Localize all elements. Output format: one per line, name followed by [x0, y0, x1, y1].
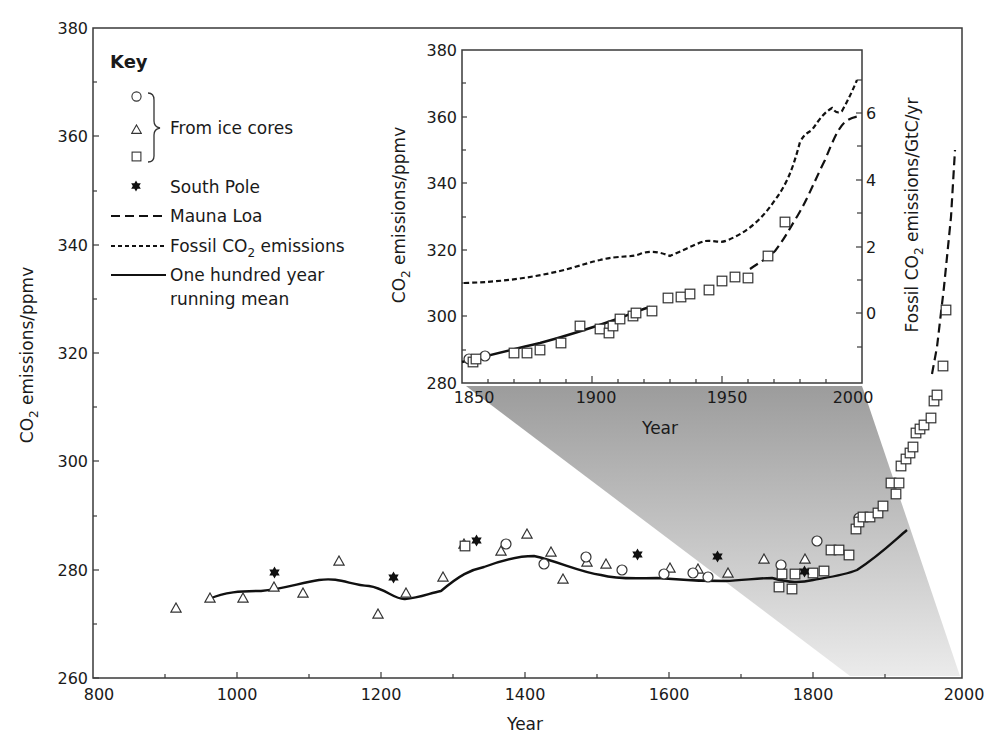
- legend-fossil-label: Fossil CO2 emissions: [170, 236, 345, 260]
- main-y-axis-title: CO2 emissions/ppmv: [17, 267, 41, 443]
- co2-chart: 260 280 300 320 340 360 380 800 1000 120…: [0, 0, 989, 747]
- svg-text:2000: 2000: [944, 685, 985, 704]
- svg-text:280: 280: [426, 374, 457, 393]
- main-x-tick-labels: 800 1000 1200 1400 1600 1800 2000: [84, 685, 985, 704]
- svg-text:320: 320: [57, 344, 88, 363]
- svg-text:320: 320: [426, 241, 457, 260]
- legend-title: Key: [110, 51, 148, 72]
- legend-triangle-icon: [132, 125, 142, 133]
- inset-x-axis-title: Year: [641, 418, 678, 438]
- main-mauna-loa-line: [932, 150, 955, 374]
- main-y-axis: [93, 82, 99, 678]
- legend-star-icon: [131, 181, 141, 192]
- legend-mauna-loa-label: Mauna Loa: [170, 206, 262, 226]
- svg-text:1400: 1400: [505, 685, 546, 704]
- main-y-tick-labels: 260 280 300 320 340 360 380: [57, 19, 88, 688]
- legend-running-mean-label-1: One hundred year: [170, 265, 324, 285]
- svg-text:1800: 1800: [793, 685, 834, 704]
- svg-text:4: 4: [866, 171, 876, 190]
- inset-chart: 280 300 320 340 360 380 0 2 4 6: [389, 41, 926, 438]
- main-x-axis: [165, 672, 885, 678]
- legend-south-pole-label: South Pole: [170, 177, 260, 197]
- svg-text:1000: 1000: [217, 685, 258, 704]
- inset-y-axis-title: CO2 emissions/ppmv: [389, 127, 413, 303]
- zoom-wedge: [466, 386, 960, 676]
- main-x-axis-title: Year: [506, 714, 543, 734]
- svg-text:0: 0: [866, 304, 876, 323]
- inset-right-y-tick-labels: 0 2 4 6: [866, 104, 876, 323]
- svg-text:380: 380: [57, 19, 88, 38]
- legend: Key From ice cores South Pole Mauna Loa …: [110, 51, 345, 309]
- svg-text:1950: 1950: [707, 388, 748, 407]
- svg-text:800: 800: [84, 685, 115, 704]
- legend-circle-icon: [132, 92, 141, 101]
- svg-text:1850: 1850: [454, 388, 495, 407]
- legend-brace-icon: [148, 93, 160, 162]
- legend-square-icon: [132, 152, 141, 161]
- svg-text:360: 360: [426, 108, 457, 127]
- svg-text:340: 340: [57, 236, 88, 255]
- svg-text:1200: 1200: [361, 685, 402, 704]
- svg-text:300: 300: [426, 307, 457, 326]
- inset-plot-frame: [462, 50, 862, 383]
- svg-text:2000: 2000: [833, 388, 874, 407]
- svg-text:280: 280: [57, 561, 88, 580]
- svg-text:6: 6: [866, 104, 876, 123]
- svg-text:1600: 1600: [649, 685, 690, 704]
- svg-text:380: 380: [426, 41, 457, 60]
- inset-y-tick-labels: 280 300 320 340 360 380: [426, 41, 457, 393]
- svg-text:300: 300: [57, 452, 88, 471]
- legend-ice-cores-label: From ice cores: [170, 118, 293, 138]
- svg-text:1900: 1900: [576, 388, 617, 407]
- svg-text:340: 340: [426, 174, 457, 193]
- inset-right-y-axis-title: Fossil CO2 emissions/GtC/yr: [902, 98, 926, 333]
- svg-text:2: 2: [866, 238, 876, 257]
- legend-running-mean-label-2: running mean: [170, 289, 289, 309]
- svg-text:360: 360: [57, 127, 88, 146]
